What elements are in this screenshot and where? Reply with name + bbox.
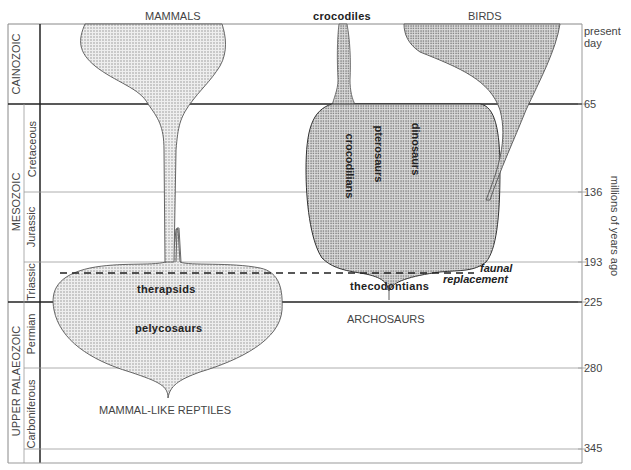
period-cretaceous: Cretaceous <box>26 112 38 186</box>
tick-345: 345 <box>584 442 602 454</box>
era-cainozoic: CAINOZOIC <box>10 32 22 96</box>
dinosaurs-label: dinosaurs <box>410 114 422 184</box>
diagram-canvas <box>0 0 631 470</box>
crocodilians-label: crocodilians <box>344 126 356 206</box>
tick-present-day: present day <box>584 25 628 49</box>
replacement-label: replacement <box>443 273 508 285</box>
pterosaurs-label: pterosaurs <box>373 119 385 189</box>
crocodiles-title: crocodiles <box>313 10 371 22</box>
therapsids-label: therapsids <box>137 283 196 295</box>
birds-title: BIRDS <box>468 10 502 22</box>
period-triassic: Triassic <box>25 253 37 311</box>
period-permian: Permian <box>25 305 37 363</box>
time-axis-label: millions of years ago <box>609 166 621 286</box>
pelycosaurs-label: pelycosaurs <box>135 322 203 334</box>
tick-280: 280 <box>584 362 602 374</box>
mammal-like-reptiles-label: MAMMAL-LIKE REPTILES <box>99 404 231 416</box>
tick-65: 65 <box>584 98 596 110</box>
tick-193: 193 <box>584 256 602 268</box>
mammals-title: MAMMALS <box>145 10 201 22</box>
crocodiles-shape <box>332 24 356 106</box>
archosaurs-shape <box>306 104 500 290</box>
tick-136: 136 <box>584 186 602 198</box>
era-mesozoic: MESOZOIC <box>10 166 22 238</box>
era-upper-palaeozoic: UPPER PALAEOZOIC <box>10 319 22 443</box>
archosaurs-label: ARCHOSAURS <box>347 313 425 325</box>
period-jurassic: Jurassic <box>25 197 37 257</box>
mammals-shape <box>81 24 226 262</box>
tick-225: 225 <box>584 296 602 308</box>
period-carboniferous: Carboniferous <box>25 374 37 454</box>
thecodontians-label: thecodontians <box>350 280 429 292</box>
